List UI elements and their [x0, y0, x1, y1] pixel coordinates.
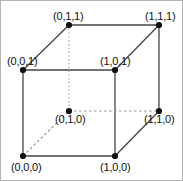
vertex-dot-000 [20, 153, 26, 159]
vertex-label-111: (1,1,1) [145, 10, 175, 22]
vertex-label-000: (0,0,0) [11, 161, 41, 173]
vertex-dot-100 [112, 153, 118, 159]
cube-diagram [1, 1, 183, 181]
figure-frame: (0,0,0)(1,0,0)(0,0,1)(1,0,1)(0,1,1)(1,1,… [0, 0, 183, 181]
vertex-label-001: (0,0,1) [7, 55, 37, 67]
vertex-dot-101 [112, 67, 118, 73]
vertex-dot-111 [156, 22, 162, 28]
edge-layer [23, 25, 159, 156]
vertex-label-011: (0,1,1) [53, 10, 83, 22]
vertex-label-100: (1,0,0) [100, 161, 130, 173]
vertex-dot-011 [66, 22, 72, 28]
vertex-dot-001 [20, 67, 26, 73]
vertex-label-110: (1,1,0) [144, 113, 174, 125]
vertex-label-101: (1,0,1) [100, 55, 130, 67]
vertex-label-010: (0,1,0) [55, 113, 85, 125]
